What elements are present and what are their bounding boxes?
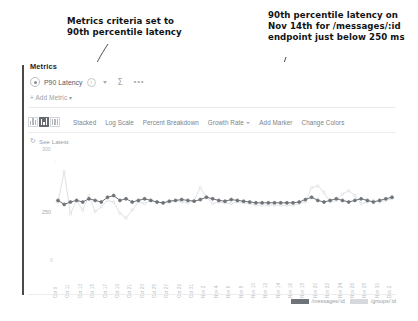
legend-color-swatch bbox=[350, 299, 368, 304]
chart-data-point bbox=[211, 197, 214, 200]
chart-legend: /messages/:id/groups/:id bbox=[291, 298, 396, 304]
panel-left-rail bbox=[22, 65, 24, 295]
chart-data-point bbox=[273, 201, 276, 204]
chart-data-point bbox=[341, 199, 344, 202]
chart-data-point bbox=[69, 213, 71, 215]
toolbar-stacked[interactable]: Stacked bbox=[73, 119, 96, 126]
aggregate-sigma-icon[interactable]: Σ bbox=[118, 78, 123, 87]
chart-data-point bbox=[156, 201, 159, 204]
chart-data-point bbox=[94, 210, 96, 212]
chevron-down-icon[interactable] bbox=[246, 122, 250, 124]
metrics-panel: Metrics P90 Latency i Σ ••• + Add Metric… bbox=[22, 62, 398, 308]
chart-data-point bbox=[224, 200, 227, 203]
metric-chip-row[interactable]: P90 Latency i Σ ••• bbox=[30, 77, 144, 87]
chart-toolbar: Stacked Log Scale Percent Breakdown Grow… bbox=[28, 116, 344, 128]
chart-data-point bbox=[131, 209, 133, 211]
legend-label: /groups/:id bbox=[371, 298, 396, 304]
info-icon[interactable]: i bbox=[87, 78, 96, 87]
chart-plot-area[interactable] bbox=[28, 146, 396, 256]
divider bbox=[28, 294, 396, 295]
refresh-icon: ↻ bbox=[30, 138, 36, 145]
x-axis-tick-label: Nov 4 bbox=[214, 286, 219, 298]
area-chart-icon[interactable] bbox=[39, 117, 49, 127]
radio-selected-icon[interactable] bbox=[30, 77, 40, 87]
legend-label: /messages/:id bbox=[312, 298, 345, 304]
chart-data-point bbox=[360, 202, 362, 204]
page-title: Metrics bbox=[30, 62, 57, 71]
chart-data-point bbox=[261, 201, 264, 204]
annotation-line: endpoint just below 250 ms bbox=[268, 32, 414, 43]
x-axis-tick-label: Nov 10 bbox=[251, 283, 256, 298]
chart-data-point bbox=[341, 193, 343, 195]
x-axis-tick-label: Nov 30 bbox=[375, 283, 380, 298]
toolbar-growth-rate-label: Growth Rate bbox=[208, 119, 244, 126]
latency-chart: 300 250 bbox=[28, 146, 396, 256]
annotation-line: 90th percentile latency bbox=[67, 27, 202, 38]
chart-data-point bbox=[81, 201, 84, 204]
toolbar-change-colors[interactable]: Change Colors bbox=[302, 119, 345, 126]
chart-data-point bbox=[236, 199, 239, 202]
chart-data-point bbox=[106, 196, 109, 199]
metric-name-label: P90 Latency bbox=[44, 79, 83, 86]
chart-data-point bbox=[347, 201, 350, 204]
chart-data-point bbox=[69, 201, 72, 204]
x-axis-tick-label: Oct 15 bbox=[90, 284, 95, 298]
chart-data-point bbox=[267, 201, 270, 204]
see-latest-button[interactable]: ↻ See Latest bbox=[30, 138, 69, 145]
chart-data-point bbox=[113, 201, 115, 203]
chart-data-point bbox=[248, 201, 251, 204]
chart-data-point bbox=[125, 217, 127, 219]
see-latest-label: See Latest bbox=[39, 138, 69, 145]
chart-data-point bbox=[63, 203, 66, 206]
chart-data-point bbox=[348, 190, 350, 192]
legend-item[interactable]: /messages/:id bbox=[291, 298, 345, 304]
chart-data-point bbox=[310, 186, 312, 188]
annotation-line: Metrics criteria set to bbox=[67, 16, 202, 27]
chart-data-point bbox=[230, 202, 232, 204]
chart-data-point bbox=[378, 199, 381, 202]
chart-data-point bbox=[82, 209, 84, 211]
chart-data-point bbox=[143, 202, 145, 204]
table-icon[interactable] bbox=[50, 117, 60, 127]
bar-chart-icon[interactable] bbox=[28, 117, 38, 127]
x-axis-tick-label: Oct 19 bbox=[115, 284, 120, 298]
chart-data-point bbox=[366, 199, 369, 202]
chart-data-point bbox=[199, 198, 202, 201]
toolbar-percent-breakdown[interactable]: Percent Breakdown bbox=[143, 119, 199, 126]
chart-data-point bbox=[149, 199, 152, 202]
x-axis: 0 Oct 9Oct 11Oct 13Oct 15Oct 17Oct 19Oct… bbox=[28, 258, 396, 298]
x-axis-tick-label: Oct 13 bbox=[78, 284, 83, 298]
x-axis-tick-label: Nov 28 bbox=[362, 283, 367, 298]
annotation-line: 90th percentile latency on bbox=[268, 10, 414, 21]
chart-data-point bbox=[193, 200, 196, 203]
annotation-p90-latency: 90th percentile latency on Nov 14th for … bbox=[268, 10, 414, 44]
chart-data-point bbox=[186, 199, 189, 202]
chart-data-point bbox=[360, 197, 363, 200]
toolbar-add-marker[interactable]: Add Marker bbox=[259, 119, 292, 126]
toolbar-growth-rate[interactable]: Growth Rate bbox=[208, 119, 251, 126]
chart-data-point bbox=[329, 199, 332, 202]
chart-data-point bbox=[354, 194, 356, 196]
chart-data-point bbox=[106, 199, 108, 201]
add-metric-button[interactable]: + Add Metric ▾ bbox=[30, 94, 72, 102]
more-options-icon[interactable]: ••• bbox=[134, 79, 145, 85]
legend-item[interactable]: /groups/:id bbox=[350, 298, 396, 304]
x-axis-tick-label: Oct 31 bbox=[189, 284, 194, 298]
x-axis-tick-label: Nov 16 bbox=[288, 283, 293, 298]
annotation-metrics-criteria: Metrics criteria set to 90th percentile … bbox=[67, 16, 202, 38]
chart-data-point bbox=[310, 196, 313, 199]
x-axis-tick-label: Oct 9 bbox=[53, 287, 58, 298]
chart-data-point bbox=[137, 199, 140, 202]
chart-data-point bbox=[316, 199, 319, 202]
chart-data-point bbox=[254, 201, 257, 204]
axis-zero-label: 0 bbox=[50, 258, 53, 263]
chevron-down-icon[interactable] bbox=[103, 81, 107, 84]
chart-data-point bbox=[94, 199, 97, 202]
chart-data-point bbox=[211, 202, 213, 204]
chart-data-point bbox=[323, 201, 326, 204]
chart-data-point bbox=[279, 201, 282, 204]
chart-data-point bbox=[119, 212, 121, 214]
x-axis-tick-label: Nov 2 bbox=[201, 286, 206, 298]
chart-data-point bbox=[87, 197, 90, 200]
toolbar-log-scale[interactable]: Log Scale bbox=[105, 119, 134, 126]
